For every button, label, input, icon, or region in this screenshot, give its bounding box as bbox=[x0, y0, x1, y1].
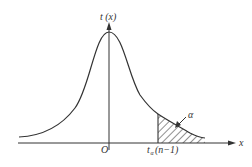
x-axis-label: x bbox=[238, 137, 244, 148]
alpha-pointer bbox=[175, 117, 186, 128]
critical-value-args: (n−1) bbox=[155, 144, 179, 156]
origin-label: O bbox=[101, 144, 108, 155]
t-distribution-diagram: t (x) x O α t α (n−1) bbox=[0, 0, 252, 167]
shaded-tail-region bbox=[155, 110, 210, 145]
y-axis-label: t (x) bbox=[100, 11, 117, 23]
critical-value-subscript: α bbox=[151, 150, 155, 156]
x-axis-arrow-icon bbox=[228, 141, 236, 146]
y-axis bbox=[107, 22, 112, 150]
tail-area-label: α bbox=[188, 109, 194, 120]
y-axis-arrow-icon bbox=[107, 22, 112, 30]
critical-value-label: t α (n−1) bbox=[147, 144, 179, 156]
